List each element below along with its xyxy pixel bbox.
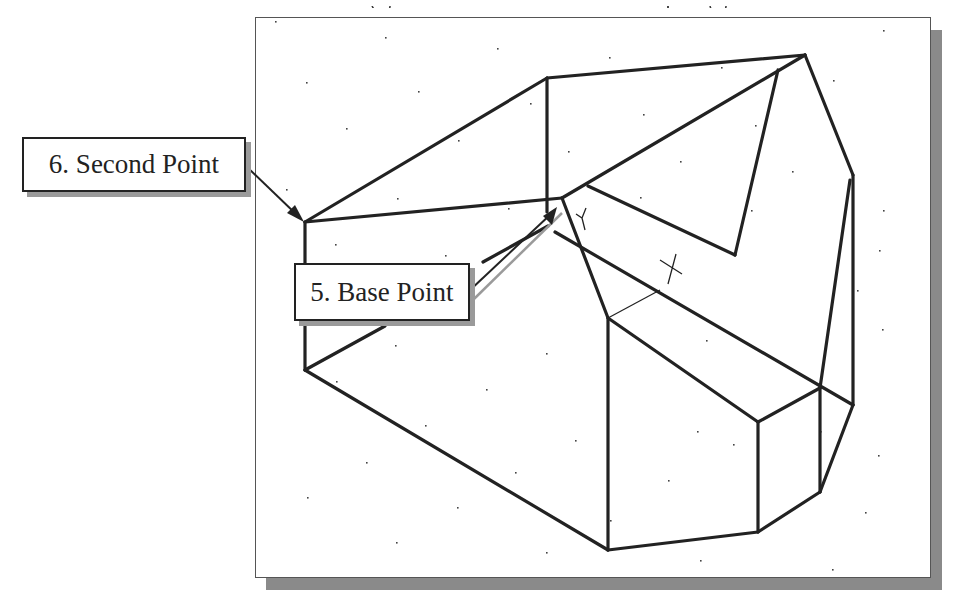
ucs-y-axis-icon xyxy=(576,208,586,230)
callout-base-point: 5. Base Point xyxy=(294,263,470,321)
callout-label: 5. Base Point xyxy=(310,279,453,306)
wireframe-thin-edges xyxy=(608,290,660,318)
arrowhead-icon xyxy=(543,207,557,225)
wireframe-drawing[interactable] xyxy=(0,0,960,607)
crosshair-cursor-icon xyxy=(660,254,682,284)
callout-second-point: 6. Second Point xyxy=(22,137,246,192)
leader-base-point xyxy=(468,207,562,299)
leader-second-point xyxy=(247,167,304,222)
callout-label: 6. Second Point xyxy=(49,151,219,178)
